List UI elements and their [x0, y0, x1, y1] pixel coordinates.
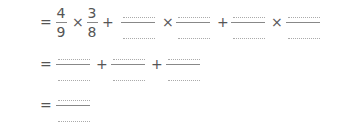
numerator: 4: [56, 6, 66, 20]
denominator-blank[interactable]: [233, 38, 265, 39]
fraction-bar: [87, 22, 98, 23]
denominator-blank[interactable]: [123, 38, 155, 39]
fraction-bar: [176, 22, 210, 23]
denominator: 8: [87, 25, 97, 39]
fraction-bar: [56, 64, 90, 65]
numerator-blank[interactable]: [288, 17, 320, 18]
equals-sign: =: [40, 57, 52, 71]
numerator: 3: [87, 6, 97, 20]
fraction-bar: [56, 22, 67, 23]
plus-sign: +: [151, 57, 163, 71]
times-sign: ×: [271, 15, 283, 29]
denominator-blank[interactable]: [58, 80, 90, 81]
plus-sign: +: [96, 57, 108, 71]
fraction-bar: [121, 22, 155, 23]
numerator-blank[interactable]: [233, 17, 265, 18]
numerator-blank[interactable]: [123, 17, 155, 18]
denominator-blank[interactable]: [168, 80, 200, 81]
denominator-blank[interactable]: [178, 38, 210, 39]
denominator: 9: [56, 25, 66, 39]
plus-sign: +: [102, 15, 114, 29]
numerator-blank[interactable]: [58, 100, 90, 101]
fraction-bar: [111, 64, 145, 65]
equals-sign: =: [40, 98, 52, 112]
numerator-blank[interactable]: [113, 59, 145, 60]
fraction-bar: [166, 64, 200, 65]
times-sign: ×: [162, 15, 174, 29]
denominator-blank[interactable]: [58, 121, 90, 122]
numerator-blank[interactable]: [58, 59, 90, 60]
fraction-bar: [231, 22, 265, 23]
fraction-bar: [286, 22, 320, 23]
denominator-blank[interactable]: [113, 80, 145, 81]
fraction-bar: [56, 105, 90, 106]
times-sign: ×: [72, 15, 84, 29]
denominator-blank[interactable]: [288, 38, 320, 39]
equals-sign: =: [40, 15, 52, 29]
plus-sign: +: [217, 15, 229, 29]
numerator-blank[interactable]: [168, 59, 200, 60]
numerator-blank[interactable]: [178, 17, 210, 18]
